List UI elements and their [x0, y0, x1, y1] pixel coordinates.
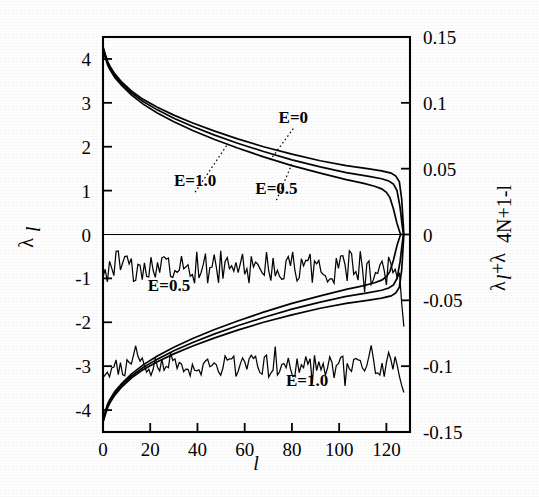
x-tick-label: 20 [141, 439, 160, 460]
y-tick-label-left: -3 [75, 356, 91, 377]
x-tick-label: 0 [98, 439, 108, 460]
y-axis-left-subscript: l [22, 226, 44, 232]
annotation-label: E=1.0 [286, 371, 328, 390]
y-axis-right-tick-labels: 0.150.10.050-0.05-0.1-0.15 [423, 27, 463, 443]
y-tick-label-left: -1 [75, 268, 91, 289]
y-tick-label-right: 0.1 [423, 93, 447, 114]
y-tick-label-left: 4 [82, 49, 92, 70]
annotation-label: E=0 [279, 108, 309, 127]
y-axis-right-plus-lambda: +λ [487, 253, 509, 274]
x-axis-title: l [253, 452, 259, 474]
y-axis-left-lambda: λ [15, 238, 37, 248]
x-tick-label: 120 [372, 439, 401, 460]
y-axis-right-lambda-1: λ [487, 281, 509, 291]
curve-e-1-0-negative-branch [103, 235, 401, 421]
eigenvalue-spectrum-chart: 020406080100120 43210-1-2-3-4 0.150.10.0… [0, 0, 539, 497]
y-tick-label-right: -0.15 [423, 422, 463, 443]
y-axis-right-subscript-2: 4N+1-l [493, 185, 515, 243]
y-axis-right-title: λ l +λ 4N+1-l [487, 185, 515, 291]
curve-e-0-5-positive-branch [103, 48, 403, 235]
y-axis-left-title: λ l [15, 226, 44, 248]
y-axis-left-tick-labels: 43210-1-2-3-4 [75, 49, 91, 421]
y-tick-label-right: -0.1 [423, 356, 453, 377]
y-tick-label-right: 0.15 [423, 27, 456, 48]
x-axis-tick-labels: 020406080100120 [98, 439, 400, 460]
x-tick-label: 60 [235, 439, 254, 460]
y-axis-right-ticks [401, 103, 410, 366]
curve-e-0-negative-branch [103, 235, 404, 423]
y-tick-label-left: 2 [82, 137, 92, 158]
curve-e-1-0-positive-branch [103, 48, 401, 234]
y-tick-label-right: -0.05 [423, 290, 463, 311]
curve-e-0-positive-branch [103, 47, 404, 235]
x-axis-ticks [103, 423, 386, 432]
x-tick-label: 80 [282, 439, 301, 460]
noisy-sum-traces [103, 251, 404, 393]
annotation-label: E=0.5 [255, 179, 297, 198]
figure-container: 020406080100120 43210-1-2-3-4 0.150.10.0… [0, 0, 539, 497]
y-tick-label-left: 3 [82, 93, 92, 114]
y-tick-label-left: -4 [75, 400, 91, 421]
y-tick-label-right: 0.05 [423, 159, 456, 180]
x-tick-label: 100 [325, 439, 354, 460]
noise-e-1-0-sum-trace [103, 345, 404, 392]
annotation-label: E=0.5 [148, 276, 190, 295]
x-tick-label: 40 [188, 439, 207, 460]
y-tick-label-left: 0 [82, 225, 92, 246]
annotation-label: E=1.0 [174, 171, 216, 190]
y-tick-label-left: -2 [75, 312, 91, 333]
curve-e-0-5-negative-branch [103, 235, 403, 422]
y-tick-label-left: 1 [82, 181, 92, 202]
y-tick-label-right: 0 [423, 225, 433, 246]
